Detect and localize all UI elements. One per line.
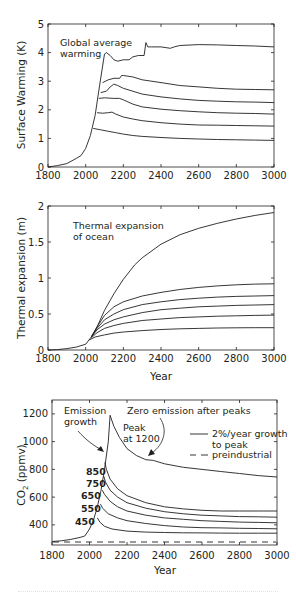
x-tick-label: 2000 <box>73 353 98 364</box>
peak-label-750: 750 <box>86 478 106 489</box>
emission-arrow-icon <box>78 431 102 450</box>
x-tick-label: 2600 <box>189 550 214 561</box>
y-tick-label: 3 <box>38 76 44 87</box>
arrowhead-icon <box>97 446 104 452</box>
y-tick-label: 5 <box>38 19 44 30</box>
annotation-line-2: warming <box>60 48 101 59</box>
y-axis-label: CO2 (ppmv) <box>15 444 30 505</box>
y-tick-label: 1 <box>38 133 44 144</box>
x-tick-label: 3000 <box>264 550 289 561</box>
series-line <box>93 128 274 140</box>
x-tick-label: 2600 <box>186 170 211 181</box>
x-axis-label: Year <box>153 564 177 576</box>
series-line <box>97 112 274 126</box>
series-line <box>48 43 274 167</box>
x-axis-label: Year <box>149 370 173 382</box>
annotation-line-1: Global average <box>60 37 132 48</box>
x-tick-label: 3000 <box>261 353 286 364</box>
peak-label-650: 650 <box>81 490 101 501</box>
x-tick-label: 2000 <box>77 550 102 561</box>
y-tick-label: 0.5 <box>28 309 44 320</box>
series-line <box>103 76 274 90</box>
y-tick-label: 4 <box>38 47 44 58</box>
x-tick-label: 2400 <box>148 353 173 364</box>
series-lines <box>48 43 274 167</box>
zero-emission-label: Zero emission after peaks <box>127 405 251 416</box>
y-tick-label: 1200 <box>23 408 48 419</box>
emission-growth-label-2: growth <box>64 416 97 427</box>
arrowhead-icon <box>148 449 155 456</box>
x-tick-label: 2200 <box>114 550 139 561</box>
peak-label-850: 850 <box>86 466 106 477</box>
y-tick-label: 1 <box>38 273 44 284</box>
x-tick-label: 2800 <box>224 170 249 181</box>
series-line <box>89 328 274 340</box>
x-tick-label: 2800 <box>224 353 249 364</box>
legend-label-preindustrial: preindustrial <box>212 449 272 460</box>
y-tick-label: 600 <box>29 492 48 503</box>
peak-label-450: 450 <box>75 516 95 527</box>
figure: 1800200022002400260028003000012345 Globa… <box>0 0 296 597</box>
annotation-line-1: Thermal expansion <box>72 220 164 231</box>
legend-label-growth-1: 2%/year growth <box>212 428 288 439</box>
peak-1200-label-1: Peak <box>123 422 146 433</box>
x-tick-label: 3000 <box>261 170 286 181</box>
y-axis-label: Thermal expansion (m) <box>15 217 27 340</box>
x-tick-label: 2000 <box>73 170 98 181</box>
y-tick-label: 2 <box>38 201 44 212</box>
annotation-line-2: of ocean <box>73 231 114 242</box>
y-tick-label: 0 <box>38 345 44 356</box>
series-line <box>91 296 274 337</box>
truncated-caption <box>18 591 278 596</box>
series-line <box>101 84 274 103</box>
emission-growth-label-1: Emission <box>64 405 106 416</box>
thermal-expansion-panel: 180020002200240026002800300000.511.52 Th… <box>15 201 287 383</box>
y-tick-label: 400 <box>29 519 48 530</box>
tick-group: 1800200022002400260028003000400600800100… <box>23 400 290 561</box>
series-line <box>99 98 274 114</box>
surface-warming-panel: 1800200022002400260028003000012345 Globa… <box>15 19 287 182</box>
legend: 2%/year growth to peak preindustrial <box>190 428 288 460</box>
x-tick-label: 2800 <box>227 550 252 561</box>
y-tick-label: 0 <box>38 162 44 173</box>
peak-label-550: 550 <box>81 503 101 514</box>
y-tick-label: 800 <box>29 464 48 475</box>
y-axis-label: Surface Warming (K) <box>15 41 27 150</box>
y-tick-label: 1.5 <box>28 237 44 248</box>
series-line <box>102 490 277 523</box>
x-tick-label: 2200 <box>111 353 136 364</box>
x-tick-label: 2200 <box>111 170 136 181</box>
x-tick-label: 2600 <box>186 353 211 364</box>
co2-panel: 1800200022002400260028003000400600800100… <box>15 400 290 576</box>
x-tick-label: 2400 <box>152 550 177 561</box>
y-tick-label: 2 <box>38 104 44 115</box>
x-tick-label: 1800 <box>39 550 64 561</box>
x-tick-label: 2400 <box>148 170 173 181</box>
peak-1200-label-2: at 1200 <box>123 433 160 444</box>
